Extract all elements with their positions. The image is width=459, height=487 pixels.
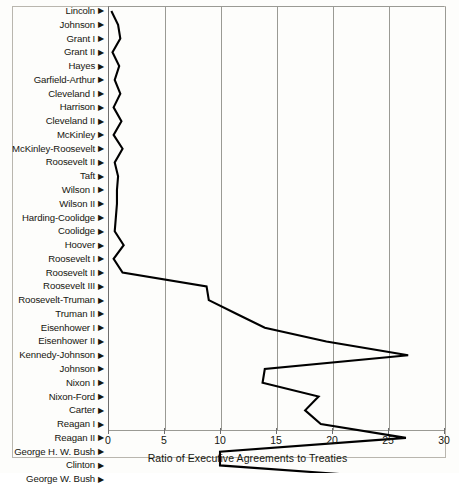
category-label-4: Hayes▶ (0, 59, 104, 73)
category-label-30: Reagan I▶ (0, 417, 104, 431)
category-label-text: Taft (80, 170, 95, 181)
category-label-7: Harrison▶ (0, 100, 104, 114)
gridline-30 (445, 7, 446, 430)
category-label-1: Johnson▶ (0, 18, 104, 32)
category-label-text: Cleveland II (46, 115, 95, 126)
category-label-text: Nixon-Ford (49, 391, 95, 402)
x-tick-label-20: 20 (312, 434, 352, 446)
category-tick-icon: ▶ (98, 225, 104, 239)
category-label-25: Kennedy-Johnson▶ (0, 348, 104, 362)
category-label-text: Reagan I (57, 418, 95, 429)
gridline-5 (165, 7, 166, 430)
category-label-3: Grant II▶ (0, 45, 104, 59)
category-tick-icon: ▶ (98, 376, 104, 390)
category-tick-icon: ▶ (98, 349, 104, 363)
category-label-text: Carter (69, 404, 95, 415)
category-tick-icon: ▶ (98, 239, 104, 253)
category-tick-icon: ▶ (98, 211, 104, 225)
category-label-10: McKinley-Roosevelt▶ (0, 142, 104, 156)
category-label-17: Hoover▶ (0, 238, 104, 252)
x-tick-label-25: 25 (368, 434, 408, 446)
category-tick-icon: ▶ (98, 404, 104, 418)
category-label-6: Cleveland I▶ (0, 87, 104, 101)
category-label-text: Johnson (60, 19, 96, 30)
category-label-text: Lincoln (65, 5, 95, 16)
category-label-16: Coolidge▶ (0, 224, 104, 238)
category-label-28: Nixon-Ford▶ (0, 390, 104, 404)
category-label-21: Roosevelt-Truman▶ (0, 293, 104, 307)
category-label-22: Truman II▶ (0, 307, 104, 321)
category-label-text: Garfield-Arthur (34, 74, 95, 85)
category-tick-icon: ▶ (98, 362, 104, 376)
x-axis-ticks: 051015202530 (0, 434, 459, 450)
category-label-15: Harding-Coolidge▶ (0, 211, 104, 225)
category-tick-icon: ▶ (98, 294, 104, 308)
category-label-text: Eisenhower I (41, 322, 95, 333)
category-label-text: Harding-Coolidge (22, 212, 95, 223)
category-tick-icon: ▶ (98, 128, 104, 142)
category-label-24: Eisenhower II▶ (0, 334, 104, 348)
category-label-9: McKinley▶ (0, 128, 104, 142)
category-label-26: Johnson▶ (0, 362, 104, 376)
category-tick-icon: ▶ (98, 73, 104, 87)
category-label-13: Wilson I▶ (0, 183, 104, 197)
gridline-25 (389, 7, 390, 430)
category-label-19: Roosevelt II▶ (0, 266, 104, 280)
category-label-text: Roosevelt I (48, 253, 95, 264)
category-label-34: George W. Bush▶ (0, 472, 104, 486)
category-tick-icon: ▶ (98, 418, 104, 432)
category-label-0: Lincoln▶ (0, 4, 104, 18)
category-label-11: Roosevelt II▶ (0, 155, 104, 169)
category-tick-icon: ▶ (98, 32, 104, 46)
gridline-20 (333, 7, 334, 430)
category-label-text: Cleveland I (48, 88, 95, 99)
x-tick-label-0: 0 (88, 434, 128, 446)
category-tick-icon: ▶ (98, 473, 104, 487)
x-tick-label-15: 15 (256, 434, 296, 446)
plot-area (108, 6, 444, 431)
category-label-text: Wilson I (62, 184, 95, 195)
category-label-2: Grant I▶ (0, 32, 104, 46)
category-label-text: Roosevelt-Truman (18, 294, 95, 305)
category-label-text: George W. Bush (26, 473, 95, 484)
category-tick-icon: ▶ (98, 46, 104, 60)
category-label-27: Nixon I▶ (0, 376, 104, 390)
category-label-29: Carter▶ (0, 403, 104, 417)
category-label-text: Grant II (64, 46, 95, 57)
x-tick-label-5: 5 (144, 434, 184, 446)
category-tick-icon: ▶ (98, 87, 104, 101)
category-label-text: Truman II (55, 308, 95, 319)
category-label-text: Hoover (65, 239, 95, 250)
category-tick-icon: ▶ (98, 4, 104, 18)
gridline-10 (221, 7, 222, 430)
category-tick-icon: ▶ (98, 142, 104, 156)
category-label-text: Nixon I (66, 377, 95, 388)
category-label-12: Taft▶ (0, 169, 104, 183)
category-tick-icon: ▶ (98, 197, 104, 211)
category-label-14: Wilson II▶ (0, 197, 104, 211)
category-label-text: Harrison (60, 101, 95, 112)
category-label-text: Roosevelt II (46, 267, 95, 278)
category-tick-icon: ▶ (98, 321, 104, 335)
category-tick-icon: ▶ (98, 266, 104, 280)
category-tick-icon: ▶ (98, 60, 104, 74)
category-label-text: Grant I (66, 33, 95, 44)
category-label-text: McKinley (57, 129, 95, 140)
category-tick-icon: ▶ (98, 307, 104, 321)
category-tick-icon: ▶ (98, 18, 104, 32)
x-tick-label-10: 10 (200, 434, 240, 446)
category-label-text: McKinley-Roosevelt (12, 143, 95, 154)
category-label-text: Roosevelt III (43, 280, 95, 291)
category-tick-icon: ▶ (98, 280, 104, 294)
category-label-5: Garfield-Arthur▶ (0, 73, 104, 87)
category-label-text: Johnson (60, 363, 96, 374)
x-axis-title: Ratio of Executive Agreements to Treatie… (0, 452, 459, 464)
x-axis-title-text: Ratio of Executive Agreements to Treatie… (112, 452, 348, 464)
category-tick-icon: ▶ (98, 170, 104, 184)
category-label-text: Eisenhower II (38, 335, 95, 346)
category-tick-icon: ▶ (98, 252, 104, 266)
category-label-18: Roosevelt I▶ (0, 252, 104, 266)
category-tick-icon: ▶ (98, 115, 104, 129)
category-axis-labels: Lincoln▶Johnson▶Grant I▶Grant II▶Hayes▶G… (0, 0, 104, 473)
